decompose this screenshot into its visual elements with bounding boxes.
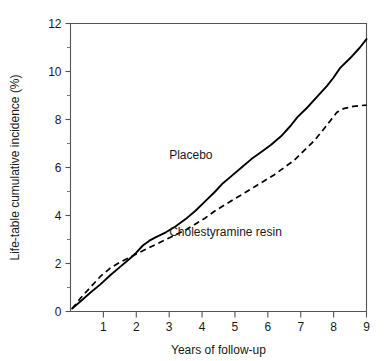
series-group [72, 39, 366, 309]
line-chart: 024681012 123456789 PlaceboCholestyramin… [0, 0, 387, 361]
y-axis-tick-labels: 024681012 [48, 17, 62, 319]
x-axis-ticks [103, 312, 366, 318]
y-axis-tick-label: 10 [48, 65, 62, 79]
x-axis-tick-label: 7 [297, 320, 304, 334]
x-axis-tick-label: 6 [264, 320, 271, 334]
y-axis-ticks [66, 24, 71, 312]
y-axis-tick-label: 0 [55, 305, 62, 319]
series-annotation-label: Placebo [169, 148, 213, 162]
y-axis-tick-label: 2 [55, 257, 62, 271]
x-axis-tick-label: 4 [199, 320, 206, 334]
series-annotation-label: Cholestyramine resin [169, 225, 282, 239]
x-axis-tick-label: 8 [330, 320, 337, 334]
y-axis-tick-label: 6 [55, 161, 62, 175]
x-axis-tick-labels: 123456789 [100, 320, 370, 334]
y-axis-tick-label: 12 [48, 17, 62, 31]
chart-figure: 024681012 123456789 PlaceboCholestyramin… [0, 0, 387, 361]
plot-frame [71, 24, 367, 312]
x-axis-tick-label: 3 [166, 320, 173, 334]
series-line-cholestyramine-resin [72, 105, 366, 309]
x-axis-tick-label: 9 [363, 320, 370, 334]
x-axis-tick-label: 5 [232, 320, 239, 334]
y-axis-tick-label: 4 [55, 209, 62, 223]
y-axis-tick-label: 8 [55, 113, 62, 127]
series-line-placebo [72, 39, 366, 309]
x-axis-title: Years of follow-up [171, 343, 266, 357]
y-axis-title: Life-table cumulative incidence (%) [8, 74, 22, 260]
x-axis-tick-label: 2 [133, 320, 140, 334]
x-axis-tick-label: 1 [100, 320, 107, 334]
series-annotations: PlaceboCholestyramine resin [169, 148, 282, 239]
